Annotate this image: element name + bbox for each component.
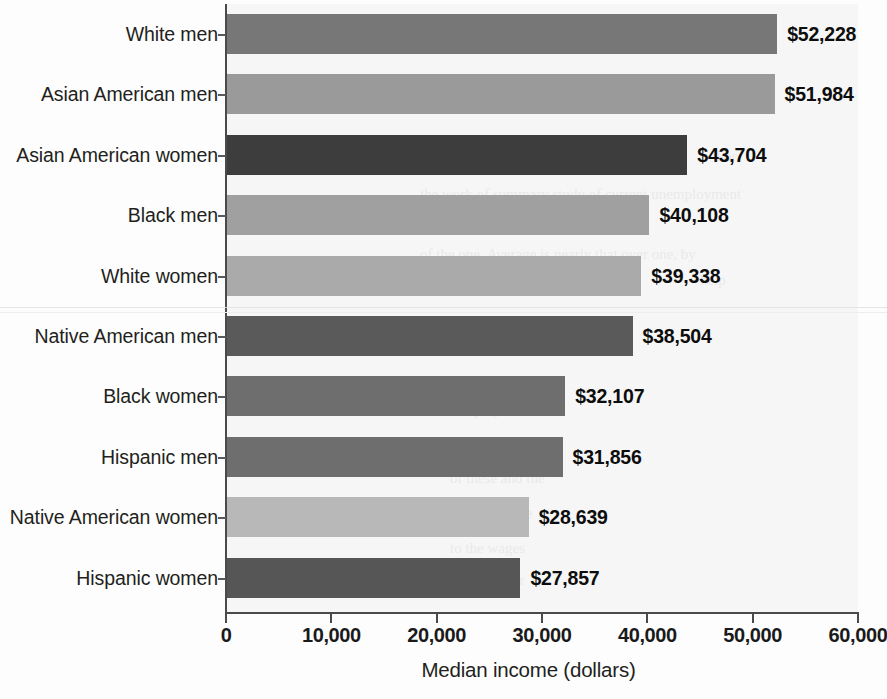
bar — [227, 437, 563, 477]
category-label: Black men — [128, 185, 218, 245]
x-tick-label: 60,000 — [829, 624, 887, 647]
bar — [227, 376, 565, 416]
category-label: White men — [126, 4, 218, 64]
y-tick-mark — [218, 94, 226, 96]
category-label: Asian American women — [16, 125, 218, 185]
bar-row: Native American men$38,504 — [0, 306, 887, 366]
bar-row: Hispanic women$27,857 — [0, 548, 887, 608]
x-tick-mark — [330, 614, 332, 623]
x-axis-title: Median income (dollars) — [0, 658, 887, 682]
x-tick-mark — [857, 614, 859, 623]
x-tick-label: 20,000 — [407, 624, 466, 647]
x-tick-mark — [541, 614, 543, 623]
bar-value-label: $28,639 — [539, 497, 608, 537]
bar-value-label: $32,107 — [575, 376, 644, 416]
bar-row: Black women$32,107 — [0, 366, 887, 426]
bar-row: Asian American women$43,704 — [0, 125, 887, 185]
y-tick-mark — [218, 336, 226, 338]
x-axis-title-text: Median income (dollars) — [421, 658, 635, 681]
bar — [227, 74, 775, 114]
bar-value-label: $52,228 — [787, 14, 856, 54]
y-tick-mark — [218, 34, 226, 36]
x-tick-label: 30,000 — [513, 624, 572, 647]
x-tick-mark — [225, 614, 227, 623]
category-label: Hispanic men — [101, 427, 218, 487]
bar-row: White men$52,228 — [0, 4, 887, 64]
bar — [227, 135, 687, 175]
y-tick-mark — [218, 215, 226, 217]
y-tick-mark — [218, 276, 226, 278]
bar — [227, 497, 529, 537]
x-tick-mark — [436, 614, 438, 623]
y-tick-mark — [218, 578, 226, 580]
bar-row: White women$39,338 — [0, 246, 887, 306]
bar — [227, 558, 520, 598]
category-label: Asian American men — [41, 64, 218, 124]
bar-value-label: $39,338 — [651, 256, 720, 296]
bar-row: Black men$40,108 — [0, 185, 887, 245]
x-tick-mark — [752, 614, 754, 623]
x-tick-mark — [646, 614, 648, 623]
y-tick-mark — [218, 517, 226, 519]
bar-value-label: $51,984 — [785, 74, 854, 114]
bar-row: Hispanic men$31,856 — [0, 427, 887, 487]
bar-value-label: $38,504 — [643, 316, 712, 356]
category-label: Native American women — [10, 487, 218, 547]
bar-value-label: $40,108 — [659, 195, 728, 235]
category-label: Black women — [103, 366, 218, 426]
bar — [227, 14, 777, 54]
x-tick-label: 0 — [221, 624, 232, 647]
y-tick-mark — [218, 396, 226, 398]
bar-chart: the same time as we say that we are to b… — [0, 0, 887, 699]
bar — [227, 256, 641, 296]
bar-value-label: $27,857 — [530, 558, 599, 598]
category-label: White women — [101, 246, 218, 306]
category-label: Native American men — [35, 306, 218, 366]
x-tick-label: 50,000 — [723, 624, 782, 647]
y-tick-mark — [218, 155, 226, 157]
category-label: Hispanic women — [76, 548, 218, 608]
bar — [227, 195, 649, 235]
y-tick-mark — [218, 457, 226, 459]
bar-value-label: $31,856 — [573, 437, 642, 477]
bar-row: Asian American men$51,984 — [0, 64, 887, 124]
bar-row: Native American women$28,639 — [0, 487, 887, 547]
bar-value-label: $43,704 — [697, 135, 766, 175]
bar — [227, 316, 633, 356]
x-tick-label: 40,000 — [618, 624, 677, 647]
x-tick-label: 10,000 — [302, 624, 361, 647]
